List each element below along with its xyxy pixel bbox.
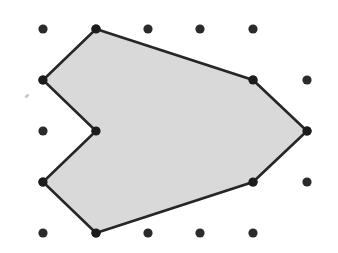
grid-dot <box>143 228 152 237</box>
grid-dot <box>38 24 47 33</box>
grid-dot <box>302 75 311 84</box>
polygon-vertex-dot <box>38 177 47 186</box>
grid-dot <box>38 228 47 237</box>
grid-dot <box>302 177 311 186</box>
grid-dot <box>248 24 257 33</box>
polygon-vertex-dot <box>91 228 100 237</box>
polygon-vertex-dot <box>91 126 100 135</box>
dot-grid-polygon-figure <box>0 0 338 253</box>
grid-dot <box>195 24 204 33</box>
grid-dot <box>195 228 204 237</box>
polygon-vertex-dot <box>38 75 47 84</box>
polygon-vertex-dot <box>248 75 257 84</box>
figure-container <box>0 0 338 253</box>
grid-dot <box>38 126 47 135</box>
polygon-vertex-dot <box>91 24 100 33</box>
polygon-vertex-dot <box>248 177 257 186</box>
grid-dot <box>143 24 152 33</box>
grid-dot <box>248 228 257 237</box>
polygon-vertex-dot <box>302 126 311 135</box>
